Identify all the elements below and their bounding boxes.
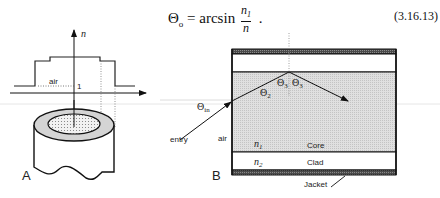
fiber-cylinder bbox=[34, 100, 114, 179]
tick-label-one: 1 bbox=[77, 82, 82, 91]
panel-b-label: B bbox=[212, 168, 221, 183]
jacket-label: Jacket bbox=[304, 180, 328, 189]
air-label-a: air bbox=[49, 77, 58, 86]
jacket-leader bbox=[331, 176, 345, 187]
panel-a-label: A bbox=[22, 168, 31, 183]
jacket-bottom bbox=[232, 170, 396, 175]
jacket-top bbox=[232, 49, 396, 54]
core-label: Core bbox=[307, 141, 325, 150]
clad-label: Clad bbox=[307, 158, 323, 167]
n-axis-label: n bbox=[81, 28, 86, 39]
entry-label: entry bbox=[170, 135, 188, 144]
air-label-b: air bbox=[218, 134, 227, 143]
theta-in-label: Θin bbox=[197, 101, 210, 114]
cladding-top bbox=[232, 54, 396, 72]
panel-b-fiber bbox=[180, 33, 396, 187]
figure: n air 1 A Θin Θ2 Θ3 Θ3 entry air n1 n2 C… bbox=[0, 0, 440, 198]
